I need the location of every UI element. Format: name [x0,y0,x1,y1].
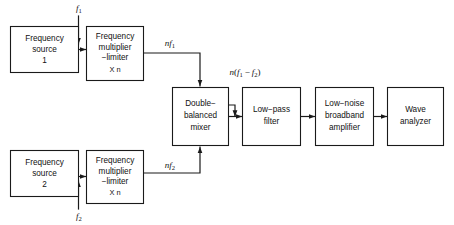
block-low-pass-filter[interactable]: Low−pass filter [243,88,301,146]
freq-source-1-line-2: source [32,45,57,54]
freq-multiplier-2-line-1: Frequency [96,156,136,165]
freq-multiplier-2-line-2: multiplier [99,167,132,176]
freq-source-2-line-3: 2 [42,180,47,189]
freq-multiplier-1-line-3: −limiter [102,53,129,62]
f2-sub: 2 [79,215,82,222]
nfd-sub1: 1 [239,71,242,78]
block-double-balanced-mixer[interactable]: Double− balanced mixer [173,88,229,146]
diagram-canvas: Frequency source 1 Frequency multiplier … [0,0,454,225]
filter-line-1: Low−pass [253,105,290,114]
signal-label-f1: f1 [76,3,82,14]
amplifier-line-3: amplifier [329,123,360,132]
freq-source-1-line-1: Frequency [25,34,65,43]
wire-nf1-to-mixer [144,53,201,86]
analyzer-line-2: analyzer [400,117,431,126]
signal-label-n-f1-minus-f2: n(f1−f2) [229,67,260,78]
freq-source-2-line-1: Frequency [25,158,65,167]
block-freq-multiplier-1[interactable]: Frequency multiplier −limiter X n [87,27,144,81]
freq-multiplier-1-factor: X n [109,65,120,74]
block-diagram: Frequency source 1 Frequency multiplier … [0,0,454,225]
freq-source-2-line-2: source [32,169,57,178]
freq-multiplier-1-line-2: multiplier [99,43,132,52]
nf1-sub: 1 [172,42,175,49]
analyzer-line-1: Wave [405,105,426,114]
freq-multiplier-1-line-1: Frequency [96,32,136,41]
filter-line-2: filter [264,117,280,126]
mixer-line-1: Double− [185,99,216,108]
block-low-noise-broadband-amplifier[interactable]: Low−noise broadband amplifier [316,88,374,146]
signal-label-f2: f2 [76,211,82,222]
amplifier-line-1: Low−noise [325,99,365,108]
freq-multiplier-2-factor: X n [109,188,120,197]
nf2-sub: 2 [172,164,175,171]
mixer-line-3: mixer [190,123,210,132]
block-freq-source-1[interactable]: Frequency source 1 [11,27,79,73]
block-freq-multiplier-2[interactable]: Frequency multiplier −limiter X n [87,151,144,204]
nfd-close: ) [258,67,261,77]
block-freq-source-2[interactable]: Frequency source 2 [11,151,79,197]
f1-sub: 1 [79,7,82,14]
nfd-minus: − [245,67,250,77]
amplifier-line-2: broadband [325,111,365,120]
block-wave-analyzer[interactable]: Wave analyzer [388,88,444,146]
freq-source-1-line-3: 1 [42,56,47,65]
freq-multiplier-2-line-3: −limiter [102,177,129,186]
wire-mixer-output-drop [229,105,236,117]
signal-label-nf2: nf2 [165,160,175,171]
signal-label-nf1: nf1 [165,38,175,49]
mixer-line-2: balanced [184,111,218,120]
